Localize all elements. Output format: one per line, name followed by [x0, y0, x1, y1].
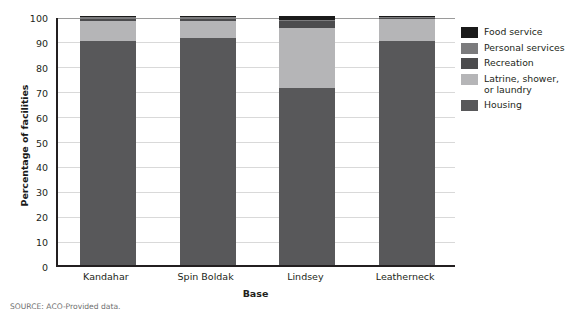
- y-tick-80: 80: [0, 63, 48, 74]
- bar-segment[interactable]: [279, 16, 335, 20]
- x-axis-title: Base: [56, 288, 455, 299]
- bar-segment[interactable]: [279, 28, 335, 88]
- bar-segment[interactable]: [279, 88, 335, 265]
- legend-label: Housing: [484, 99, 522, 111]
- legend-item[interactable]: Latrine, shower, or laundry: [461, 73, 575, 96]
- legend-label: Personal services: [484, 42, 565, 54]
- legend-swatch: [461, 100, 478, 111]
- bar-segment[interactable]: [379, 41, 435, 265]
- legend-swatch: [461, 74, 478, 85]
- source-note: SOURCE: ACO-Provided data.: [10, 302, 430, 311]
- y-tick-20: 20: [0, 212, 48, 223]
- bar-segment[interactable]: [80, 16, 136, 17]
- bar-segment[interactable]: [80, 41, 136, 265]
- legend-label: Latrine, shower, or laundry: [484, 73, 559, 96]
- legend-swatch: [461, 58, 478, 69]
- bar-series-container: [58, 18, 455, 265]
- bar-column[interactable]: [279, 18, 335, 265]
- legend-item[interactable]: Food service: [461, 26, 575, 38]
- bar-segment[interactable]: [279, 21, 335, 28]
- bar-segment[interactable]: [180, 19, 236, 21]
- bar-segment[interactable]: [80, 21, 136, 41]
- y-tick-30: 30: [0, 187, 48, 198]
- bar-column[interactable]: [80, 18, 136, 265]
- bar-segment[interactable]: [180, 21, 236, 38]
- legend-item[interactable]: Personal services: [461, 42, 575, 54]
- bar-segment[interactable]: [80, 17, 136, 18]
- legend-item[interactable]: Housing: [461, 99, 575, 111]
- y-tick-40: 40: [0, 162, 48, 173]
- chart-legend: Food servicePersonal servicesRecreationL…: [461, 26, 575, 115]
- plot-area: [56, 18, 455, 267]
- bar-column[interactable]: [379, 18, 435, 265]
- bar-segment[interactable]: [180, 38, 236, 265]
- y-tick-70: 70: [0, 88, 48, 99]
- stacked-bar: [80, 18, 136, 265]
- x-axis-tick-labels: KandaharSpin BoldakLindseyLeatherneck: [56, 271, 455, 285]
- y-tick-90: 90: [0, 38, 48, 49]
- y-tick-100: 100: [0, 13, 48, 24]
- y-tick-50: 50: [0, 138, 48, 149]
- bar-segment[interactable]: [180, 16, 236, 17]
- bar-column[interactable]: [180, 18, 236, 265]
- stacked-bar: [379, 18, 435, 265]
- bar-segment[interactable]: [80, 19, 136, 21]
- bar-segment[interactable]: [379, 19, 435, 41]
- stacked-bar: [180, 18, 236, 265]
- y-tick-0: 0: [0, 262, 48, 273]
- legend-swatch: [461, 27, 478, 38]
- legend-swatch: [461, 43, 478, 54]
- stacked-bar: [279, 18, 335, 265]
- x-tick-label: Leatherneck: [345, 271, 465, 282]
- bar-segment[interactable]: [379, 17, 435, 18]
- y-tick-10: 10: [0, 237, 48, 248]
- y-tick-60: 60: [0, 113, 48, 124]
- bar-segment[interactable]: [279, 20, 335, 21]
- legend-label: Food service: [484, 26, 543, 38]
- legend-item[interactable]: Recreation: [461, 57, 575, 69]
- chart-figure: Percentage of facilities 010203040506070…: [0, 0, 575, 311]
- legend-label: Recreation: [484, 57, 534, 69]
- bar-segment[interactable]: [180, 17, 236, 18]
